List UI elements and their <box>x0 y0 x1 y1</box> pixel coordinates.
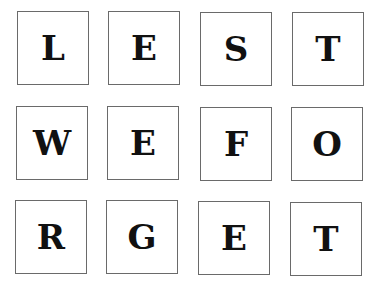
letter-tile: O <box>291 107 363 181</box>
tile-letter: E <box>221 221 247 255</box>
tile-letter: R <box>37 220 65 254</box>
letter-tile: R <box>15 200 87 274</box>
letter-tile: E <box>108 11 180 85</box>
letter-tile: L <box>17 11 89 85</box>
letter-tile: W <box>16 106 88 180</box>
tile-letter: S <box>224 32 249 66</box>
letter-tile: T <box>292 12 364 86</box>
tile-letter: T <box>313 222 338 256</box>
tile-letter: E <box>130 126 156 160</box>
tile-letter: T <box>315 32 340 66</box>
letter-tile: E <box>198 201 270 275</box>
letter-tile: E <box>107 106 179 180</box>
letter-tile: S <box>200 12 272 86</box>
tile-letter: W <box>33 126 71 160</box>
tile-letter: G <box>127 220 156 254</box>
tile-letter: L <box>41 31 65 65</box>
tile-letter: F <box>224 127 248 161</box>
letter-tile: G <box>106 200 178 274</box>
letter-tile: F <box>200 107 272 181</box>
letter-tile: T <box>290 202 362 276</box>
tile-letter: E <box>131 31 157 65</box>
tile-letter: O <box>312 127 342 161</box>
